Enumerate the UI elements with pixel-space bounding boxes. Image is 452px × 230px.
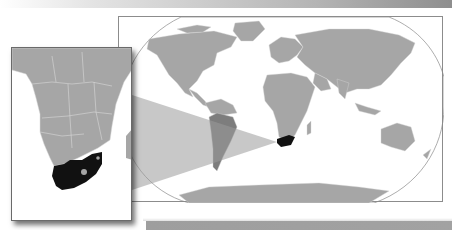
europe xyxy=(269,37,303,63)
asia xyxy=(295,29,415,93)
madagascar-inset xyxy=(126,128,132,160)
greenland xyxy=(233,21,265,41)
lesotho xyxy=(81,169,87,175)
top-gradient-band xyxy=(0,0,452,8)
australia xyxy=(381,123,415,151)
madagascar xyxy=(307,121,311,135)
eswatini xyxy=(96,156,100,160)
south-america xyxy=(209,113,237,171)
antarctica xyxy=(179,183,389,203)
world-map-graphic xyxy=(119,17,444,203)
continents xyxy=(147,21,431,203)
world-map xyxy=(118,16,443,202)
southern-africa-land xyxy=(12,48,132,166)
south-america-north xyxy=(205,99,237,115)
inset-map-southern-africa xyxy=(11,47,132,221)
north-america xyxy=(147,31,237,97)
inset-map-graphic xyxy=(12,48,132,221)
bottom-gray-band xyxy=(146,221,452,230)
